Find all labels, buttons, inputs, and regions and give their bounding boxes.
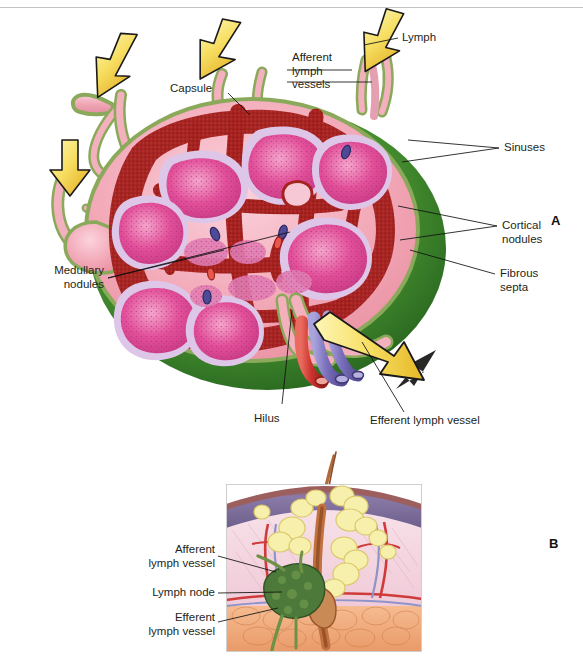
- panel-letter-a: A: [551, 213, 560, 228]
- label-hilus: Hilus: [254, 412, 280, 426]
- lymph-node-green: [264, 564, 325, 619]
- anatomical-illustration: [0, 0, 583, 667]
- afferent-arrow-1: [84, 25, 142, 105]
- label-efferent-lymph-vessel: Efferent lymph vessel: [370, 414, 480, 428]
- label-lymph: Lymph: [402, 31, 436, 45]
- panel-letter-b: B: [549, 536, 558, 551]
- label-b-afferent-lymph-vessel: Afferent lymph vessel: [105, 543, 215, 570]
- label-sinuses: Sinuses: [504, 141, 545, 155]
- label-cortical-nodules: Cortical nodules: [502, 219, 542, 246]
- label-fibrous-septa: Fibrous septa: [500, 267, 538, 294]
- panel-a-lymph-node: [50, 2, 499, 412]
- label-b-lymph-node: Lymph node: [105, 586, 215, 600]
- label-afferent-lymph-vessels: Afferent lymph vessels: [292, 51, 332, 92]
- label-capsule: Capsule: [170, 82, 212, 96]
- label-medullary-nodules: Medullary nodules: [8, 264, 104, 291]
- figure-root: Capsule Afferent lymph vessels Lymph Sin…: [0, 0, 583, 667]
- panel-b-skin-section: [218, 452, 422, 652]
- label-b-efferent-lymph-vessel: Efferent lymph vessel: [105, 611, 215, 638]
